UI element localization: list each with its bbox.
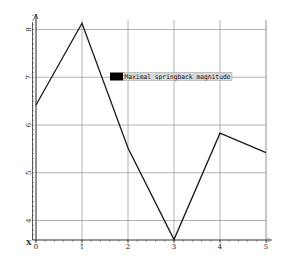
y-tick-label: 5 — [25, 171, 33, 175]
x-tick-label: 2 — [126, 243, 130, 251]
grid-lines — [36, 20, 266, 240]
x-tick-label: 3 — [172, 243, 176, 251]
x-axis-ticks: 012345 — [34, 240, 268, 251]
series-line — [36, 23, 266, 239]
x-tick-label: 4 — [218, 243, 223, 251]
y-tick-label: 7 — [25, 75, 33, 79]
data-series — [36, 23, 266, 239]
line-chart: 012345 45678 Maximal springback magnitud… — [0, 0, 288, 267]
y-tick-label: 4 — [25, 218, 33, 223]
legend-label: Maximal springback magnitude — [125, 73, 231, 81]
legend-swatch — [110, 73, 123, 81]
legend: Maximal springback magnitude — [110, 73, 232, 82]
y-tick-label: 8 — [25, 27, 33, 31]
x-axis-label: X — [26, 238, 32, 247]
x-tick-label: 0 — [34, 243, 38, 251]
x-tick-label: 5 — [264, 243, 268, 251]
x-tick-label: 1 — [80, 243, 84, 251]
y-tick-label: 6 — [25, 122, 33, 127]
